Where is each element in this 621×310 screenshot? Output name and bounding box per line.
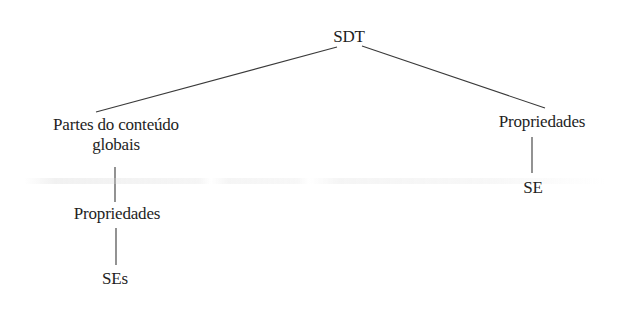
node-partes-label-line1: Partes do conteúdo (53, 115, 179, 135)
node-propriedades-right: Propriedades (499, 112, 585, 132)
tree-diagram: SDT Partes do conteúdo globais Proprieda… (0, 0, 621, 310)
edge-sdt-to-propriedades-right (362, 46, 545, 108)
scan-bleed-through (25, 178, 605, 184)
node-ses-label: SEs (102, 269, 128, 288)
node-se-label: SE (523, 178, 542, 197)
node-propriedades-left-label: Propriedades (74, 204, 160, 223)
edge-sdt-to-partes (96, 47, 337, 112)
node-sdt: SDT (333, 27, 365, 47)
node-se: SE (523, 178, 542, 198)
node-partes-label-line2: globais (53, 135, 179, 155)
node-ses: SEs (102, 269, 128, 289)
node-sdt-label: SDT (333, 27, 365, 46)
node-propriedades-left: Propriedades (74, 204, 160, 224)
node-propriedades-right-label: Propriedades (499, 112, 585, 131)
node-partes-do-conteudo-globais: Partes do conteúdo globais (53, 115, 179, 155)
tree-edges (0, 0, 621, 310)
